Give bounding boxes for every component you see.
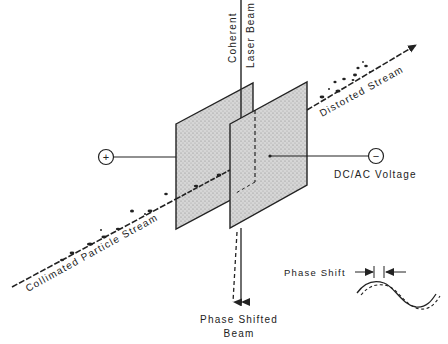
voltage-label: DC/AC Voltage [334, 169, 417, 180]
reference-wave [357, 282, 436, 307]
phase-shifted-beam-label-line1: Phase Shifted [200, 314, 278, 325]
laser-beam-label-line2: Laser Beam [245, 2, 256, 68]
phase-shift-diagram: + − Coherent Laser Beam Distorted Stream… [0, 0, 448, 344]
collimated-stream-label: Collimated Particle Stream [24, 212, 160, 294]
collimated-particle-stream [12, 193, 176, 287]
distorted-stream [307, 45, 416, 110]
phase-shift-label: Phase Shift [284, 267, 346, 278]
minus-icon: − [373, 150, 379, 162]
laser-beam-label-line1: Coherent [227, 12, 238, 63]
phase-shift-inset: Phase Shift [284, 266, 440, 309]
plus-icon: + [103, 151, 109, 163]
phase-shifted-beam-label-line2: Beam [224, 328, 255, 339]
distorted-stream-label: Distorted Stream [318, 63, 406, 118]
phase-shifted-beam [233, 228, 241, 302]
positive-terminal: + [99, 150, 177, 165]
